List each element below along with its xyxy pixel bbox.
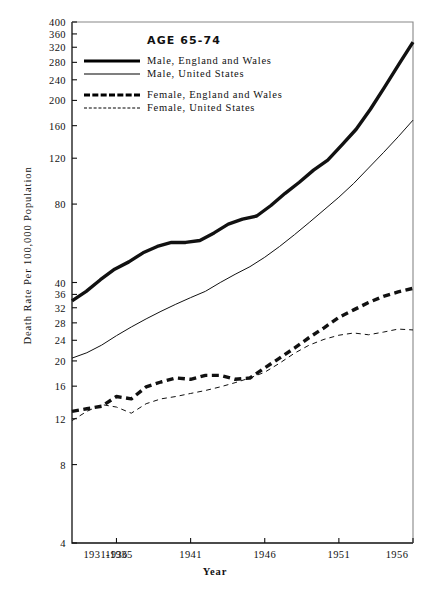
y-tick-label: 240 xyxy=(24,74,66,85)
chart-title: AGE 65-74 xyxy=(104,34,264,47)
x-tick-label: 1941 xyxy=(179,549,202,560)
y-tick-label: 32 xyxy=(24,302,66,313)
legend-item-male-united-states: Male, United States xyxy=(84,67,283,80)
x-axis-title: Year xyxy=(0,566,430,577)
series-line-2 xyxy=(72,288,413,411)
y-tick-label: 12 xyxy=(24,413,66,424)
y-tick-label: 320 xyxy=(24,42,66,53)
y-tick-label: 24 xyxy=(24,335,66,346)
series-line-1 xyxy=(72,120,413,358)
y-tick-label: 28 xyxy=(24,317,66,328)
x-tick-label: 1936 xyxy=(105,549,128,560)
legend-item-male-england-wales: Male, England and Wales xyxy=(84,54,283,67)
legend-item-female-united-states: Female, United States xyxy=(84,101,283,114)
x-tick-label: 1946 xyxy=(253,549,276,560)
y-tick-label: 80 xyxy=(24,199,66,210)
line-swatch-icon xyxy=(84,102,140,114)
y-tick-label: 8 xyxy=(24,459,66,470)
y-tick-label: 360 xyxy=(24,28,66,39)
legend-label: Male, United States xyxy=(147,68,244,79)
line-swatch-icon xyxy=(84,55,140,67)
chart-figure: Death Rate Per 100,000 Population Year A… xyxy=(0,0,430,596)
legend-label: Female, United States xyxy=(147,102,255,113)
legend-label: Male, England and Wales xyxy=(147,55,272,66)
y-tick-label: 4 xyxy=(24,538,66,549)
legend: Male, England and Wales Male, United Sta… xyxy=(84,54,283,114)
y-tick-label: 36 xyxy=(24,289,66,300)
legend-label: Female, England and Wales xyxy=(147,89,283,100)
line-swatch-icon xyxy=(84,68,140,80)
legend-item-female-england-wales: Female, England and Wales xyxy=(84,88,283,101)
y-tick-label: 20 xyxy=(24,355,66,366)
y-tick-label: 120 xyxy=(24,153,66,164)
y-tick-label: 16 xyxy=(24,381,66,392)
x-tick-label: 1951 xyxy=(328,549,351,560)
legend-spacer xyxy=(84,80,283,88)
series-line-3 xyxy=(72,329,413,421)
y-tick-label: 160 xyxy=(24,120,66,131)
y-tick-label: 40 xyxy=(24,277,66,288)
line-swatch-icon xyxy=(84,89,140,101)
x-tick-label: 1956 xyxy=(386,549,409,560)
y-tick-label: 280 xyxy=(24,57,66,68)
y-tick-label: 200 xyxy=(24,95,66,106)
y-tick-label: 400 xyxy=(24,17,66,28)
